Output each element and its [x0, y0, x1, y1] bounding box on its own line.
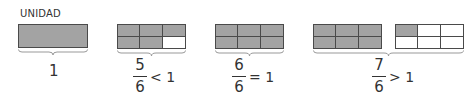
sixth-cell — [359, 25, 381, 37]
unit-value: 1 — [49, 62, 59, 80]
six-sixths-bar — [215, 24, 284, 49]
fraction-bar — [133, 76, 147, 77]
relation: < 1 — [150, 69, 175, 85]
numerator: 7 — [374, 58, 384, 73]
seven-sixths-bar-partial — [395, 24, 464, 49]
unit-bar — [18, 24, 88, 48]
sixth-cell — [163, 37, 185, 49]
sixth-cell — [238, 37, 260, 49]
sixth-cell — [314, 37, 336, 49]
sixth-cell — [216, 25, 238, 37]
five-sixths-brace — [117, 50, 186, 58]
fraction-bar — [372, 76, 386, 77]
sixth-cell — [396, 25, 418, 37]
denominator: 6 — [135, 80, 145, 95]
sixth-cell — [336, 25, 358, 37]
sixth-cell — [261, 37, 283, 49]
seven-sixths-brace — [313, 50, 464, 58]
denominator: 6 — [234, 80, 244, 95]
sixth-cell — [140, 25, 162, 37]
sixth-cell — [441, 25, 463, 37]
sixth-cell — [336, 37, 358, 49]
sixth-cell — [418, 25, 440, 37]
unit-title: UNIDAD — [20, 8, 61, 19]
sixth-cell — [238, 25, 260, 37]
numerator: 6 — [234, 58, 244, 73]
five-sixths-expression: 5 6 < 1 — [133, 58, 175, 95]
sixth-cell — [140, 37, 162, 49]
seven-sixths-expression: 7 6 > 1 — [372, 58, 414, 95]
sixth-cell — [418, 37, 440, 49]
relation: > 1 — [389, 69, 414, 85]
sixth-cell — [163, 25, 185, 37]
relation: = 1 — [249, 69, 274, 85]
sixth-cell — [359, 37, 381, 49]
fraction-bar — [232, 76, 246, 77]
six-sixths-expression: 6 6 = 1 — [232, 58, 274, 95]
denominator: 6 — [374, 80, 384, 95]
numerator: 5 — [135, 58, 145, 73]
sixth-cell — [314, 25, 336, 37]
sixth-cell — [216, 37, 238, 49]
sixth-cell — [118, 37, 140, 49]
unit-brace — [18, 49, 88, 57]
seven-sixths-bar-full — [313, 24, 382, 49]
five-sixths-bar — [117, 24, 186, 49]
six-sixths-brace — [215, 50, 284, 58]
sixth-cell — [441, 37, 463, 49]
sixth-cell — [118, 25, 140, 37]
sixth-cell — [261, 25, 283, 37]
sixth-cell — [396, 37, 418, 49]
